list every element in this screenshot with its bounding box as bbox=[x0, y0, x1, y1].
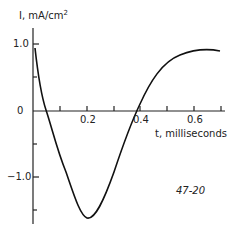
x-tick-label-04: 0.4 bbox=[133, 115, 149, 125]
x-tick-label-02: 0.2 bbox=[80, 115, 96, 125]
y-tick-label-0: 0 bbox=[17, 106, 23, 116]
figure-id: 47-20 bbox=[176, 186, 205, 196]
y-axis-label: I, mA/cm2 bbox=[19, 10, 68, 21]
y-tick-label-1: 1.0 bbox=[13, 39, 29, 49]
x-axis bbox=[33, 106, 225, 111]
y-tick-label-neg1: −1.0 bbox=[7, 172, 31, 182]
x-tick-label-06: 0.6 bbox=[187, 115, 203, 125]
x-axis-label: t, milliseconds bbox=[155, 129, 227, 139]
